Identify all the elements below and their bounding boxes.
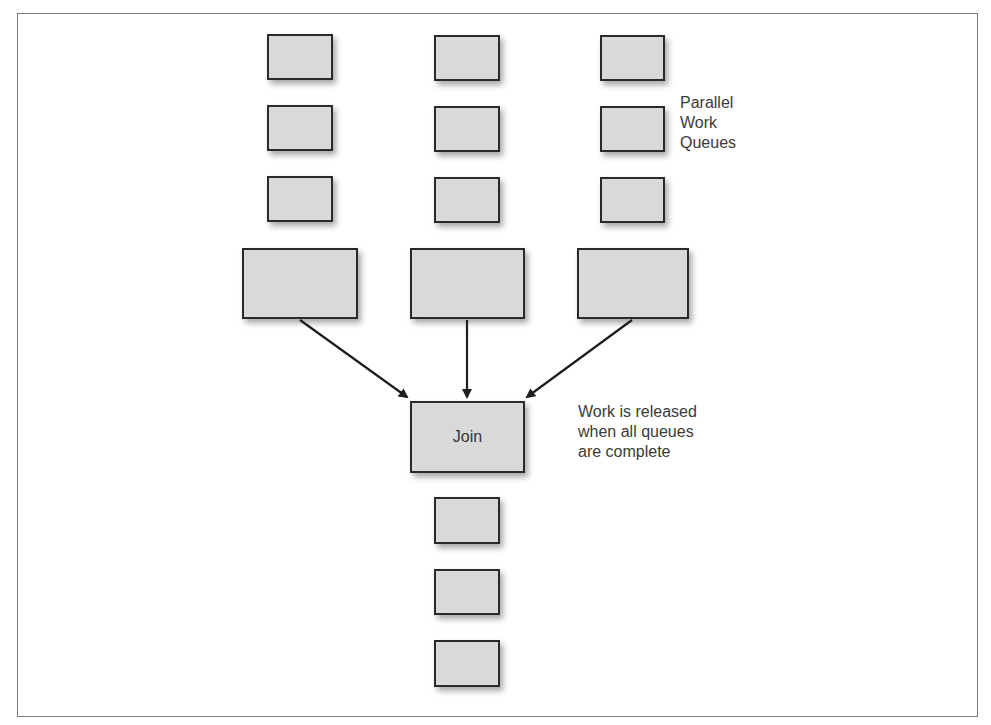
parallel-work-queues-label: Parallel Work Queues — [680, 93, 736, 153]
join-box: Join — [410, 401, 525, 473]
arrow-col1-large-to-join — [300, 320, 407, 397]
join-label: Join — [453, 428, 482, 446]
label-line: when all queues — [578, 422, 697, 442]
label-line: are complete — [578, 442, 697, 462]
label-line: Queues — [680, 133, 736, 153]
label-line: Parallel — [680, 93, 736, 113]
arrows-layer — [0, 0, 991, 725]
join-note-label: Work is released when all queues are com… — [578, 402, 697, 462]
arrow-col3-large-to-join — [527, 320, 632, 397]
label-line: Work — [680, 113, 736, 133]
label-line: Work is released — [578, 402, 697, 422]
